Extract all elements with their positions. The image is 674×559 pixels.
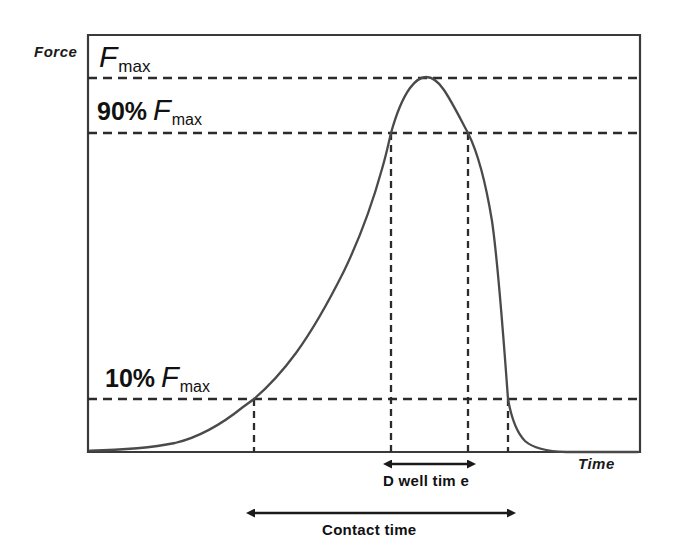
chart-canvas [0,0,674,559]
dwell-time-label: D well tim e [383,473,469,488]
level-label-10-percent: 10%Fmax [105,363,210,395]
level-label-fmax: Fmax [99,42,150,75]
ten-percent-text: 10% [105,364,155,392]
fmax-subscript: max [118,57,150,76]
level-label-90-percent: 90%Fmax [97,96,202,128]
ninety-percent-subscript: max [172,111,202,128]
y-axis-label: Force [34,44,77,59]
contact-time-label: Contact time [322,522,416,537]
ninety-percent-text: 90% [97,97,147,125]
ninety-percent-fmax-symbol: F [153,94,171,126]
x-axis-label: Time [578,456,615,471]
ten-percent-subscript: max [180,378,210,395]
fmax-symbol: F [99,40,117,73]
force-time-chart-figure: Force Time Fmax 90%Fmax 10%Fmax D well t… [0,0,674,559]
ten-percent-fmax-symbol: F [161,361,179,393]
